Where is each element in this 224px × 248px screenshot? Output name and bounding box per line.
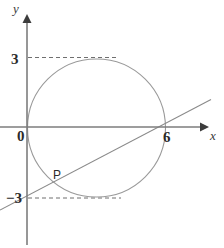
x-axis-label: x (209, 128, 216, 143)
tick-label-y-neg3: −3 (6, 190, 22, 206)
point-label-p: P (53, 168, 61, 182)
tick-label-y-3: 3 (11, 51, 19, 67)
geometry-figure: y x 3 −3 6 0 P (0, 0, 224, 248)
circle (28, 59, 166, 197)
origin-label: 0 (17, 128, 25, 144)
y-axis-label: y (11, 1, 19, 16)
y-axis-arrow-icon (23, 14, 32, 23)
secant-line (0, 100, 211, 211)
x-axis-arrow-icon (200, 123, 209, 132)
figure-canvas: y x 3 −3 6 0 P (0, 0, 224, 248)
tick-label-x-6: 6 (163, 129, 171, 145)
